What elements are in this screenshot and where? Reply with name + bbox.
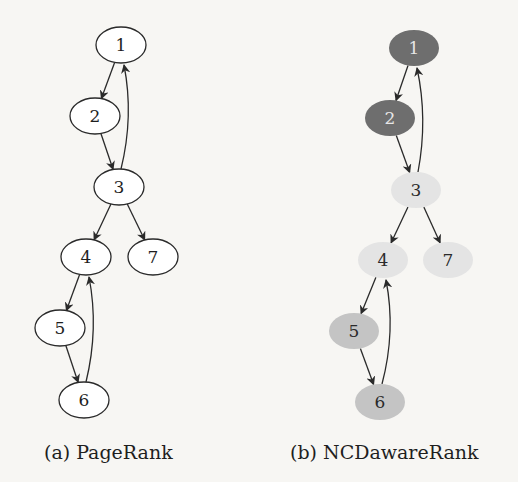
node-4: 4	[61, 239, 111, 275]
node-5: 5	[35, 310, 85, 346]
edge-3-to-7	[127, 204, 144, 240]
node-1: 1	[389, 30, 439, 66]
node-2-label: 2	[90, 106, 101, 126]
node-5: 5	[329, 313, 379, 349]
panel-pagerank-graph: 1234756	[35, 27, 178, 418]
node-7-label: 7	[443, 250, 454, 270]
node-4: 4	[358, 242, 408, 278]
edge-5-to-6	[360, 348, 373, 384]
node-1-label: 1	[116, 35, 127, 55]
edge-5-to-6	[66, 346, 78, 383]
edge-3-to-1	[121, 65, 128, 169]
caption-ncdawarerank: (b) NCDawareRank	[290, 441, 479, 463]
node-2: 2	[365, 100, 415, 136]
node-1-label: 1	[409, 38, 420, 58]
edge-3-to-4	[94, 204, 111, 240]
node-6-label: 6	[79, 390, 90, 410]
edge-1-to-2	[396, 65, 408, 100]
node-4-label: 4	[81, 247, 92, 267]
node-2-label: 2	[385, 108, 396, 128]
edge-3-to-1	[417, 68, 423, 172]
edge-1-to-2	[101, 62, 114, 98]
node-6: 6	[355, 384, 405, 420]
edge-2-to-3	[396, 135, 409, 172]
node-1: 1	[96, 27, 146, 63]
node-6-label: 6	[375, 392, 386, 412]
caption-pagerank: (a) PageRank	[44, 441, 173, 463]
node-4-label: 4	[378, 250, 389, 270]
node-7: 7	[423, 242, 473, 278]
edge-2-to-3	[101, 133, 113, 169]
node-6: 6	[59, 382, 109, 418]
edge-3-to-4	[391, 207, 408, 243]
node-7-label: 7	[148, 247, 159, 267]
node-3: 3	[391, 172, 441, 208]
edge-3-to-7	[424, 207, 440, 243]
node-5-label: 5	[55, 318, 66, 338]
node-3: 3	[94, 169, 144, 205]
node-3-label: 3	[411, 180, 422, 200]
edge-4-to-5	[361, 277, 376, 313]
graph-figure: 1234756 1234756	[0, 0, 518, 482]
node-3-label: 3	[114, 177, 125, 197]
edge-4-to-5	[66, 274, 79, 310]
edge-6-to-4	[382, 280, 390, 384]
node-7: 7	[128, 239, 178, 275]
node-2: 2	[70, 98, 120, 134]
panel-ncdawarerank-graph: 1234756	[329, 30, 473, 420]
node-5-label: 5	[349, 321, 360, 341]
edge-6-to-4	[86, 277, 93, 382]
